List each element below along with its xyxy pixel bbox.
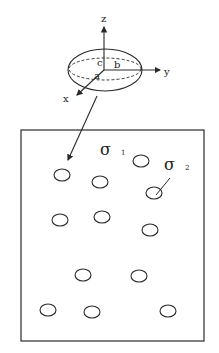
pointer-arrow bbox=[68, 96, 97, 160]
y-axis-label: y bbox=[163, 66, 170, 77]
semi-axis-c-label: c bbox=[97, 57, 103, 68]
inclusion bbox=[131, 270, 147, 282]
ellipsoidal-inclusions-diagram: z y x a b c σ 1 σ 2 bbox=[0, 0, 219, 353]
semi-axis-a-label: a bbox=[94, 70, 100, 81]
semi-axis-b-label: b bbox=[114, 59, 120, 70]
sigma1-subscript: 1 bbox=[121, 149, 125, 157]
z-axis-label: z bbox=[101, 13, 106, 24]
ellipsoid: z y x a b c bbox=[63, 13, 170, 104]
inclusion bbox=[54, 169, 70, 181]
inclusion bbox=[92, 176, 108, 188]
sigma2-leader-line bbox=[156, 178, 170, 195]
ellipsoid-equator-dashed bbox=[69, 58, 141, 80]
inclusion bbox=[146, 187, 162, 199]
inclusion bbox=[52, 214, 68, 226]
inclusions bbox=[40, 155, 176, 318]
sigma2-subscript: 2 bbox=[185, 164, 189, 172]
matrix-box: σ 1 σ 2 bbox=[21, 130, 204, 341]
inclusion bbox=[40, 304, 56, 316]
sigma1-label: σ bbox=[100, 140, 111, 159]
inclusion bbox=[133, 155, 149, 167]
inclusion bbox=[160, 305, 176, 317]
inclusion bbox=[142, 224, 158, 236]
matrix-boundary bbox=[21, 130, 204, 341]
sigma2-label: σ bbox=[164, 155, 175, 174]
inclusion bbox=[75, 269, 91, 281]
x-axis-label: x bbox=[63, 93, 69, 104]
inclusion bbox=[94, 211, 110, 223]
inclusion bbox=[84, 306, 100, 318]
